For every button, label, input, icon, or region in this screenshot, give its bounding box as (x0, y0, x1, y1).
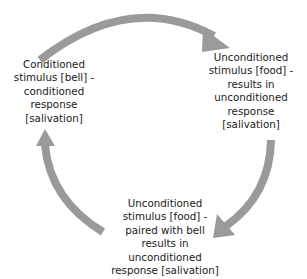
node-paired-stimulus: Unconditioned stimulus [food] - paired w… (100, 197, 230, 277)
node-line: response (196, 105, 306, 118)
node-line: results in (100, 237, 230, 250)
classical-conditioning-cycle-diagram: Conditioned stimulus [bell] - conditione… (0, 0, 307, 279)
node-line: stimulus [food] - (100, 210, 230, 223)
node-line: paired with bell (100, 224, 230, 237)
node-line: unconditioned (100, 251, 230, 264)
node-line: Unconditioned (196, 51, 306, 64)
node-line: [salivation] (196, 118, 306, 131)
arrow-bottom-to-left (36, 129, 103, 232)
node-unconditioned-stimulus: Unconditioned stimulus [food] - results … (196, 51, 306, 131)
node-conditioned-stimulus: Conditioned stimulus [bell] - conditione… (8, 58, 100, 125)
node-line: stimulus [bell] - (8, 71, 100, 84)
node-line: results in (196, 78, 306, 91)
node-line: response [salivation] (100, 264, 230, 277)
node-line: stimulus [food] - (196, 64, 306, 77)
node-line: conditioned (8, 85, 100, 98)
node-line: response (8, 98, 100, 111)
node-line: Unconditioned (100, 197, 230, 210)
node-line: [salivation] (8, 112, 100, 125)
node-line: Conditioned (8, 58, 100, 71)
node-line: unconditioned (196, 91, 306, 104)
